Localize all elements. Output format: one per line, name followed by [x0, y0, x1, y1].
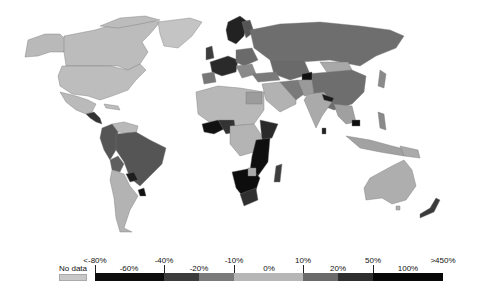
legend-segment-50-to-gt-450 — [373, 273, 443, 281]
region-balkans — [236, 64, 256, 78]
region-philippines — [378, 112, 386, 130]
legend-segment-minus20-to-minus10 — [199, 273, 234, 281]
legend-label-minus10: -10% — [225, 256, 244, 265]
region-new-zealand — [420, 198, 440, 218]
region-central-america — [86, 112, 102, 124]
legend-segment-20-to-50 — [338, 273, 373, 281]
world-choropleth-map — [0, 0, 481, 245]
legend-label-50: 50% — [365, 256, 381, 265]
region-colombia-peru — [100, 124, 118, 160]
legend-segment-10-to-20 — [303, 273, 338, 281]
region-tasmania — [396, 206, 400, 210]
legend-label-gt-450: >450% — [430, 256, 455, 265]
region-russia — [250, 22, 404, 66]
legend-label-minus60: -60% — [120, 264, 139, 273]
region-japan — [378, 70, 386, 88]
region-madagascar — [274, 164, 282, 182]
region-alaska — [25, 34, 66, 57]
region-uruguay — [138, 188, 146, 196]
legend-label-minus40: -40% — [155, 256, 174, 265]
region-zambia — [248, 168, 256, 176]
legend-label-lt-minus80: <-80% — [83, 256, 106, 265]
region-central-europe — [236, 48, 258, 66]
region-east-africa — [260, 120, 278, 140]
region-iberia — [202, 72, 216, 84]
region-png — [400, 146, 420, 158]
region-uk — [206, 46, 214, 60]
legend-label-0: 0% — [263, 264, 275, 273]
region-turkey-caucasus — [252, 72, 280, 82]
region-egypt — [246, 92, 262, 104]
legend-no-data-swatch — [59, 274, 87, 281]
legend-label-100: 100% — [398, 264, 418, 273]
region-sri-lanka — [322, 128, 326, 134]
region-australia — [364, 160, 416, 204]
legend-segment-minus10-to-10 — [234, 273, 303, 281]
region-caribbean — [104, 104, 120, 110]
legend-segment-minus40-to-minus20 — [164, 273, 199, 281]
legend-no-data-label: No data — [59, 264, 87, 273]
legend: No data <-80% -40% -10% 10% 50% >450% -6… — [0, 245, 481, 292]
region-cambodia — [352, 120, 360, 126]
legend-color-bar — [95, 273, 443, 281]
legend-segment-lt-minus80-to-minus40 — [95, 273, 164, 281]
legend-label-20: 20% — [330, 264, 346, 273]
legend-label-10: 10% — [295, 256, 311, 265]
region-greenland — [158, 18, 202, 48]
region-indonesia — [346, 136, 408, 156]
legend-label-minus20: -20% — [190, 264, 209, 273]
